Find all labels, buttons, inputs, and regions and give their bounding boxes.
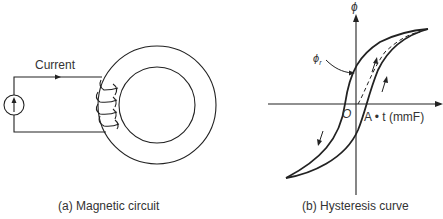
toroid-inner [119, 67, 195, 143]
origin-label: O [342, 107, 351, 121]
x-axis-label: A • t (mmF) [364, 110, 424, 124]
remanence-label: ϕr [313, 52, 321, 66]
coil-winding [96, 80, 119, 129]
hysteresis-plot [268, 14, 443, 195]
caption-a: (a) Magnetic circuit [58, 199, 159, 213]
caption-b: (b) Hysteresis curve [302, 199, 409, 213]
y-axis-label: ϕ [351, 0, 358, 14]
initial-curve [358, 32, 420, 104]
current-arrow-icon [55, 75, 61, 80]
current-label: Current [35, 58, 75, 72]
